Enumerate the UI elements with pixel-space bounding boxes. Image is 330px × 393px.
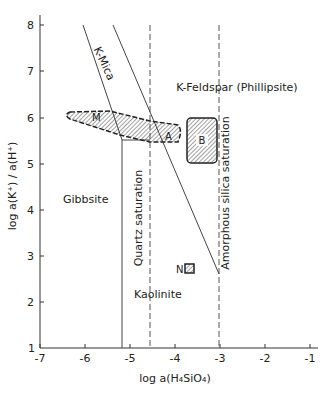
y-axis-label: log a(K⁺) / a(H⁺) — [6, 142, 19, 231]
x-tick-labels: -7 -6 -5 -4 -3 -2 -1 — [35, 352, 316, 365]
field-label-kaolinite: Kaolinite — [134, 288, 182, 301]
y-tick-label: 1 — [28, 342, 35, 355]
x-tick-label: -5 — [125, 352, 136, 365]
y-tick-label: 6 — [27, 112, 34, 125]
field-label-k-mica: K-Mica — [91, 45, 118, 83]
sample-label-a: A — [165, 131, 172, 142]
sample-marker-n — [185, 264, 194, 273]
x-axis-label: log a(H₄SiO₄) — [139, 372, 210, 385]
sample-label-m: M — [92, 112, 101, 123]
y-ticks — [40, 25, 44, 302]
x-tick-label: -1 — [305, 352, 316, 365]
y-tick-label: 5 — [27, 158, 34, 171]
quartz-saturation-label: Quartz saturation — [132, 170, 145, 267]
y-tick-labels: 1 2 3 4 5 6 7 8 — [27, 19, 35, 355]
sample-region-m-a — [67, 111, 181, 142]
y-tick-label: 2 — [27, 296, 34, 309]
x-tick-label: -4 — [170, 352, 181, 365]
amorphous-silica-saturation-label: Amorphous silica saturation — [219, 116, 232, 270]
y-tick-label: 4 — [27, 204, 34, 217]
x-tick-label: -6 — [80, 352, 91, 365]
x-ticks — [40, 344, 310, 348]
sample-label-n: N — [176, 264, 183, 275]
field-label-k-feldspar: K-Feldspar (Phillipsite) — [176, 81, 297, 94]
field-label-gibbsite: Gibbsite — [63, 193, 109, 206]
x-tick-label: -7 — [35, 352, 46, 365]
x-tick-label: -2 — [260, 352, 271, 365]
y-tick-label: 8 — [27, 19, 34, 32]
sample-label-b: B — [199, 135, 206, 146]
stability-diagram: -7 -6 -5 -4 -3 -2 -1 1 2 3 4 5 6 7 8 log… — [0, 0, 330, 393]
x-tick-label: -3 — [215, 352, 226, 365]
y-tick-label: 3 — [27, 250, 34, 263]
y-tick-label: 7 — [27, 65, 34, 78]
